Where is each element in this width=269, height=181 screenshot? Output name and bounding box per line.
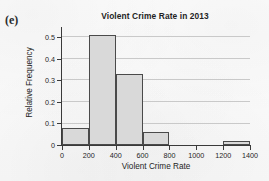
histogram-bar bbox=[143, 132, 170, 145]
x-tick-mark bbox=[223, 146, 224, 150]
x-tick-label: 1200 bbox=[208, 151, 238, 160]
x-tick-mark bbox=[116, 146, 117, 150]
x-tick-label: 800 bbox=[154, 151, 184, 160]
x-tick-mark bbox=[143, 146, 144, 150]
y-tick-mark bbox=[57, 59, 61, 60]
x-tick-label: 1000 bbox=[181, 151, 211, 160]
y-tick-label: 0.4 bbox=[33, 54, 55, 63]
y-tick-mark bbox=[57, 102, 61, 103]
histogram-bar bbox=[62, 128, 89, 145]
x-tick-label: 0 bbox=[47, 151, 77, 160]
histogram-bar bbox=[89, 35, 116, 145]
histogram-chart: Violent Crime Rate in 2013 00.10.20.30.4… bbox=[0, 0, 269, 181]
histogram-bar bbox=[116, 74, 143, 145]
x-tick-label: 200 bbox=[74, 151, 104, 160]
x-tick-label: 400 bbox=[101, 151, 131, 160]
y-axis-line bbox=[61, 27, 62, 146]
y-tick-mark bbox=[57, 80, 61, 81]
y-tick-label: 0.5 bbox=[33, 33, 55, 42]
x-tick-label: 600 bbox=[128, 151, 158, 160]
x-tick-mark bbox=[62, 146, 63, 150]
y-tick-label: 0.1 bbox=[33, 119, 55, 128]
x-axis-title: Violent Crime Rate bbox=[62, 162, 250, 171]
x-tick-mark bbox=[250, 146, 251, 150]
y-tick-label: 0.2 bbox=[33, 97, 55, 106]
y-tick-label: 0 bbox=[33, 141, 55, 150]
y-tick-mark bbox=[57, 145, 61, 146]
x-tick-mark bbox=[89, 146, 90, 150]
y-tick-mark bbox=[57, 37, 61, 38]
plot-area bbox=[62, 31, 250, 145]
panel-label: (e) bbox=[5, 13, 18, 28]
x-tick-label: 1400 bbox=[235, 151, 265, 160]
y-axis-title: Relative Frequency bbox=[25, 33, 34, 133]
y-tick-mark bbox=[57, 123, 61, 124]
y-tick-label: 0.3 bbox=[33, 76, 55, 85]
chart-title: Violent Crime Rate in 2013 bbox=[55, 11, 255, 21]
x-tick-mark bbox=[169, 146, 170, 150]
x-tick-mark bbox=[196, 146, 197, 150]
